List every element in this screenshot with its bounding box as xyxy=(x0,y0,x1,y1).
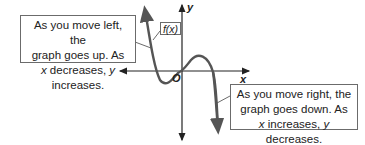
function-label: f(x) xyxy=(160,22,181,35)
origin-label: O xyxy=(172,72,181,84)
right-callout-line1: As you move right, the xyxy=(235,87,353,102)
left-callout-line2: graph goes up. As xyxy=(25,48,131,63)
right-callout-line3: x increases, y decreases. xyxy=(235,117,353,145)
right-callout: As you move right, the graph goes down. … xyxy=(230,84,358,130)
y-axis-label: y xyxy=(187,1,193,13)
right-callout-line2: graph goes down. As xyxy=(235,102,353,117)
right-callout-pointer xyxy=(217,96,230,103)
left-callout-line3: x decreases, y increases. xyxy=(25,63,131,93)
left-callout-pointer xyxy=(135,42,151,48)
left-callout-line1: As you move left, the xyxy=(25,18,131,48)
left-callout: As you move left, the graph goes up. As … xyxy=(20,15,136,63)
f-label-pointer xyxy=(153,31,160,40)
